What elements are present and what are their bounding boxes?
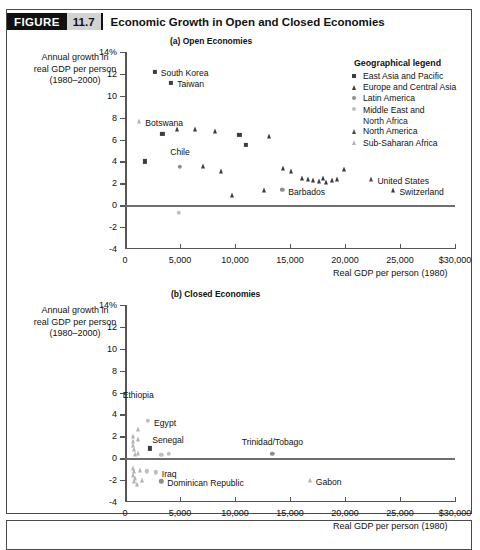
x-tick-label: 15,000 — [276, 508, 304, 518]
data-point — [154, 470, 158, 474]
data-point — [136, 450, 140, 455]
x-tick-label: 25,000 — [386, 255, 414, 265]
y-tick — [120, 458, 125, 459]
data-point — [262, 187, 266, 192]
legend-item-3[interactable]: Middle East and — [352, 105, 474, 116]
y-tick-label: -4 — [109, 244, 117, 254]
x-tick-label: 15,000 — [276, 255, 304, 265]
x-tick-label: 10,000 — [221, 508, 249, 518]
geographical-legend: Geographical legend East Asia and Pacifi… — [352, 58, 474, 149]
point-label: Ethiopia — [123, 390, 154, 400]
panel-b-plot: -4-202468101214%05,00010,00015,00020,000… — [125, 305, 455, 502]
y-tick-label: 2 — [112, 178, 117, 188]
y-tick-label: 4 — [112, 156, 117, 166]
legend-marker-icon — [352, 105, 363, 112]
data-point — [219, 169, 223, 174]
x-tick-label: 5,000 — [169, 255, 192, 265]
x-tick — [180, 244, 181, 249]
x-tick — [455, 497, 456, 502]
legend-item-label: Middle East and — [363, 105, 425, 116]
y-tick — [120, 480, 125, 481]
data-point — [281, 166, 285, 171]
x-tick — [400, 497, 401, 502]
legend-marker-icon — [352, 82, 363, 90]
y-tick-label: 10 — [107, 91, 117, 101]
data-point — [308, 478, 312, 483]
y-tick — [120, 349, 125, 350]
x-tick-label: 5,000 — [169, 508, 192, 518]
x-tick-label: 20,000 — [331, 508, 359, 518]
x-tick — [400, 244, 401, 249]
y-tick-label: 8 — [112, 113, 117, 123]
point-label: South Korea — [161, 68, 209, 78]
data-point — [138, 468, 142, 473]
y-tick — [120, 227, 125, 228]
point-label: Senegal — [152, 435, 184, 445]
legend-item-0[interactable]: East Asia and Pacific — [352, 71, 474, 82]
y-tick-label: -2 — [109, 222, 117, 232]
x-tick — [345, 244, 346, 249]
point-label: Dominican Republic — [167, 478, 243, 488]
y-tick-label: 4 — [112, 409, 117, 419]
data-point — [136, 436, 140, 441]
legend-item-4[interactable]: North America — [352, 126, 474, 137]
legend-rows: East Asia and PacificEurope and Central … — [352, 71, 474, 148]
y-tick-label: 14% — [99, 300, 117, 310]
x-tick-label: 20,000 — [331, 255, 359, 265]
y-tick-label: 6 — [112, 388, 117, 398]
point-label: Barbados — [288, 187, 325, 197]
legend-item-label: Europe and Central Asia — [363, 82, 456, 93]
legend-item-1[interactable]: Europe and Central Asia — [352, 82, 474, 93]
point-label: Trinidad/Tobago — [242, 437, 303, 447]
y-tick — [120, 118, 125, 119]
x-tick — [235, 244, 236, 249]
point-label: Egypt — [154, 418, 176, 428]
legend-item-label: East Asia and Pacific — [363, 71, 443, 82]
point-label: Taiwan — [177, 79, 204, 89]
data-point — [145, 469, 149, 473]
legend-item-label: Latin America — [363, 93, 415, 104]
y-tick — [120, 74, 125, 75]
data-point — [267, 134, 271, 139]
y-tick — [120, 305, 125, 306]
point-label: Switzerland — [399, 187, 443, 197]
data-point — [342, 167, 346, 172]
data-point — [300, 175, 304, 180]
x-tick — [455, 244, 456, 249]
data-point — [311, 178, 315, 183]
data-point — [213, 128, 217, 133]
y-axis — [125, 52, 127, 249]
legend-item-2[interactable]: Latin America — [352, 93, 474, 104]
y-tick-label: 14% — [99, 47, 117, 57]
x-tick-label: 0 — [122, 255, 127, 265]
data-point — [153, 70, 157, 74]
legend-item-5[interactable]: Sub-Saharan Africa — [352, 138, 474, 149]
y-tick-label: 0 — [112, 453, 117, 463]
legend-item-label-continued: North Africa — [352, 116, 474, 127]
data-point — [289, 169, 293, 174]
figure-title: Economic Growth in Open and Closed Econo… — [103, 13, 385, 30]
data-point — [324, 180, 328, 185]
data-point — [330, 178, 334, 183]
data-point — [270, 452, 274, 456]
x-tick-label: 0 — [122, 508, 127, 518]
data-point — [280, 188, 284, 192]
data-point — [201, 163, 205, 168]
data-point — [177, 211, 181, 215]
y-tick — [120, 327, 125, 328]
y-tick-label: 12 — [107, 69, 117, 79]
x-tick — [290, 497, 291, 502]
panel-b-x-caption: Real GDP per person (1980) — [333, 521, 447, 531]
y-tick — [120, 161, 125, 162]
point-label: Chile — [170, 147, 190, 157]
data-point — [335, 176, 339, 181]
data-point — [140, 478, 144, 483]
figure-number: 11.7 — [67, 13, 103, 30]
x-tick — [290, 244, 291, 249]
data-point — [317, 179, 321, 184]
x-tick — [235, 497, 236, 502]
y-tick — [120, 414, 125, 415]
x-tick — [180, 497, 181, 502]
y-tick — [120, 96, 125, 97]
data-point — [306, 176, 310, 181]
